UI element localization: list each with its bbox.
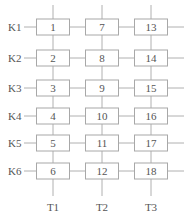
cell-label: 8 — [99, 52, 105, 64]
cell-label: 3 — [50, 82, 56, 94]
cell-box: 4 — [37, 108, 70, 124]
cell-label: 17 — [146, 137, 158, 149]
cell-box: 16 — [135, 108, 168, 124]
cell-box: 15 — [135, 80, 168, 96]
cell-box: 12 — [86, 163, 119, 179]
cell-label: 15 — [146, 82, 158, 94]
cell-box: 8 — [86, 50, 119, 66]
cell-box: 17 — [135, 135, 168, 151]
cell-label: 7 — [99, 21, 105, 33]
cell-box: 3 — [37, 80, 70, 96]
row-label: K2 — [8, 52, 21, 64]
column-label: T2 — [96, 201, 108, 213]
row-label: K4 — [8, 110, 22, 122]
column-label: T1 — [47, 201, 59, 213]
cell-box: 1 — [37, 19, 70, 35]
cell-label: 9 — [99, 82, 105, 94]
cell-box: 11 — [86, 135, 119, 151]
cell-box: 14 — [135, 50, 168, 66]
cell-label: 4 — [50, 110, 56, 122]
cell-label: 1 — [50, 21, 56, 33]
cell-label: 13 — [146, 21, 158, 33]
row-label: K3 — [8, 82, 22, 94]
cell-label: 6 — [50, 165, 56, 177]
cell-label: 14 — [146, 52, 158, 64]
column-label: T3 — [145, 201, 158, 213]
cell-box: 2 — [37, 50, 70, 66]
cell-label: 5 — [50, 137, 56, 149]
cell-box: 18 — [135, 163, 168, 179]
cell-label: 16 — [146, 110, 158, 122]
cell-box: 13 — [135, 19, 168, 35]
row-labels: K1K2K3K4K5K6 — [8, 21, 22, 177]
cell-box: 6 — [37, 163, 70, 179]
row-label: K1 — [8, 21, 21, 33]
cell-label: 10 — [97, 110, 109, 122]
row-label: K5 — [8, 137, 22, 149]
grid-diagram: 171328143915410165111761218 K1K2K3K4K5K6… — [0, 0, 193, 219]
cell-box: 10 — [86, 108, 119, 124]
cell-box: 7 — [86, 19, 119, 35]
cell-box: 9 — [86, 80, 119, 96]
cell-label: 11 — [97, 137, 108, 149]
row-label: K6 — [8, 165, 22, 177]
cell-label: 2 — [50, 52, 56, 64]
cell-box: 5 — [37, 135, 70, 151]
cell-label: 12 — [97, 165, 108, 177]
cell-label: 18 — [146, 165, 158, 177]
column-labels: T1T2T3 — [47, 201, 158, 213]
